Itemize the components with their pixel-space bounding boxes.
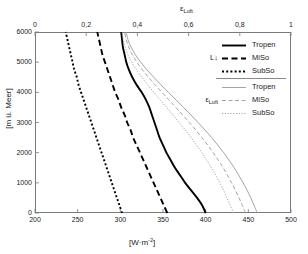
legend-item[interactable]: εLuftMiSo <box>192 93 288 106</box>
legend-item-label: SubSo <box>247 66 275 75</box>
legend-line-swatch <box>221 107 247 120</box>
legend-line-sample <box>221 106 247 119</box>
legend-line-sample <box>221 38 247 51</box>
legend-line-sample <box>221 64 247 77</box>
series-L-miso <box>97 32 167 213</box>
legend-item-label: Tropen <box>247 40 276 49</box>
legend-item[interactable]: L↓MiSo <box>192 51 288 64</box>
legend-item[interactable]: Tropen <box>192 80 288 93</box>
legend-line-sample <box>221 80 247 93</box>
legend-item-label: Tropen <box>247 82 276 91</box>
legend-item[interactable]: Tropen <box>192 38 288 51</box>
legend-line-sample <box>221 93 247 106</box>
down-arrow-icon: ↓ <box>214 53 218 62</box>
legend-item[interactable]: SubSo <box>192 106 288 119</box>
chart-figure: εLuft 00,20,40,60,81 [m ü. Meer] 0100020… <box>0 0 308 254</box>
legend-line-sample <box>221 51 247 64</box>
legend-tag-subscript: Luft <box>209 99 218 105</box>
legend-divider <box>216 78 286 79</box>
legend-line-swatch <box>221 65 247 78</box>
series-L-subso <box>66 32 122 213</box>
legend-item-label: MiSo <box>247 53 269 62</box>
legend-group-epsilon: TropenεLuftMiSoSubSo <box>192 80 288 119</box>
legend-item-label: SubSo <box>247 108 275 117</box>
chart-legend: TropenL↓MiSoSubSoTropenεLuftMiSoSubSo <box>192 38 288 119</box>
legend-item-label: MiSo <box>247 95 269 104</box>
legend-group-tag: εLuft <box>192 95 221 104</box>
legend-group-ldown: TropenL↓MiSoSubSo <box>192 38 288 77</box>
legend-group-tag: L↓ <box>192 53 221 62</box>
legend-item[interactable]: SubSo <box>192 64 288 77</box>
